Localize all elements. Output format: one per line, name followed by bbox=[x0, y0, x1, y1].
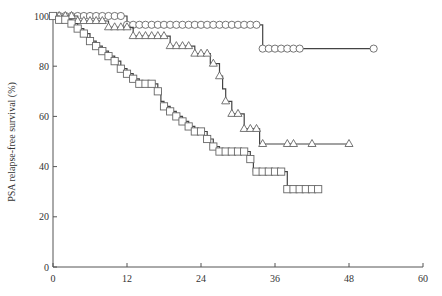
censor-square-marker bbox=[278, 168, 285, 175]
x-tick-label: 60 bbox=[418, 273, 428, 284]
axes: 01224364860020406080100 bbox=[34, 11, 428, 285]
y-tick-label: 60 bbox=[39, 111, 49, 122]
x-tick-label: 36 bbox=[270, 273, 280, 284]
censor-square-marker bbox=[315, 186, 322, 193]
censor-triangle-marker bbox=[203, 49, 211, 56]
censor-triangle-marker bbox=[160, 32, 168, 39]
y-tick-label: 0 bbox=[44, 262, 49, 273]
survival-step-line bbox=[53, 16, 349, 144]
censor-triangle-marker bbox=[308, 140, 316, 147]
x-tick-label: 48 bbox=[344, 273, 354, 284]
km-survival-chart: 01224364860020406080100 PSA relapse-free… bbox=[0, 0, 442, 296]
censor-triangle-marker bbox=[253, 124, 261, 131]
censor-square-marker bbox=[197, 128, 204, 135]
x-tick-label: 12 bbox=[122, 273, 132, 284]
censor-triangle-marker bbox=[216, 72, 224, 79]
censor-circle-marker bbox=[253, 21, 260, 28]
censor-square-marker bbox=[154, 88, 161, 95]
censor-square-marker bbox=[247, 155, 254, 162]
censor-triangle-marker bbox=[290, 140, 298, 147]
series-squares bbox=[49, 12, 321, 192]
y-tick-label: 80 bbox=[39, 61, 49, 72]
censor-triangle-marker bbox=[185, 42, 193, 49]
censor-circle-marker bbox=[370, 45, 377, 52]
y-tick-label: 20 bbox=[39, 211, 49, 222]
censor-square-marker bbox=[204, 135, 211, 142]
censor-triangle-marker bbox=[345, 140, 353, 147]
censor-square-marker bbox=[80, 30, 87, 37]
y-tick-label: 100 bbox=[34, 11, 49, 22]
censor-square-marker bbox=[148, 80, 155, 87]
y-axis-label: PSA relapse-free survival (%) bbox=[6, 82, 18, 202]
censor-triangle-marker bbox=[222, 97, 230, 104]
censor-triangle-marker bbox=[234, 109, 242, 116]
x-tick-label: 24 bbox=[196, 273, 206, 284]
censor-square-marker bbox=[241, 148, 248, 155]
censor-circle-marker bbox=[296, 45, 303, 52]
censor-circle-marker bbox=[117, 12, 124, 19]
y-tick-label: 40 bbox=[39, 161, 49, 172]
x-tick-label: 0 bbox=[51, 273, 56, 284]
censor-square-marker bbox=[111, 58, 118, 65]
series-triangles bbox=[53, 12, 353, 147]
plot-area bbox=[49, 12, 377, 193]
